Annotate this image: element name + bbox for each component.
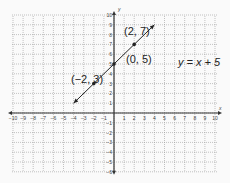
svg-text:−8: −8 bbox=[30, 115, 36, 121]
svg-text:6: 6 bbox=[109, 51, 112, 57]
svg-text:9: 9 bbox=[204, 115, 207, 121]
svg-text:3: 3 bbox=[143, 115, 146, 121]
point-label-0-5: (0, 5) bbox=[126, 53, 152, 65]
svg-text:2: 2 bbox=[133, 115, 136, 121]
point-label-2-7: (2, 7) bbox=[124, 25, 150, 37]
svg-text:4: 4 bbox=[153, 115, 156, 121]
svg-text:−4: −4 bbox=[71, 115, 77, 121]
svg-text:−5: −5 bbox=[61, 115, 67, 121]
coordinate-plane: −10−9−8−7−6−5−4−3−2−112345678910−6−5−4−3… bbox=[0, 0, 230, 183]
svg-text:7: 7 bbox=[183, 115, 186, 121]
svg-text:−7: −7 bbox=[40, 115, 46, 121]
svg-text:2: 2 bbox=[109, 90, 112, 96]
svg-text:−1: −1 bbox=[106, 120, 112, 126]
svg-text:−10: −10 bbox=[9, 115, 18, 121]
svg-text:8: 8 bbox=[193, 115, 196, 121]
svg-text:1: 1 bbox=[123, 115, 126, 121]
svg-text:−2: −2 bbox=[91, 115, 97, 121]
svg-text:10: 10 bbox=[212, 115, 218, 121]
svg-text:−6: −6 bbox=[106, 169, 112, 175]
x-axis-label: x bbox=[218, 105, 222, 111]
svg-text:10: 10 bbox=[106, 12, 112, 18]
svg-text:4: 4 bbox=[109, 71, 112, 77]
axes bbox=[8, 11, 222, 175]
svg-text:−6: −6 bbox=[51, 115, 57, 121]
svg-text:−3: −3 bbox=[81, 115, 87, 121]
svg-text:7: 7 bbox=[109, 41, 112, 47]
svg-text:−5: −5 bbox=[106, 159, 112, 165]
y-axis-label: y bbox=[117, 6, 121, 12]
svg-text:3: 3 bbox=[109, 81, 112, 87]
svg-text:6: 6 bbox=[173, 115, 176, 121]
svg-text:−3: −3 bbox=[106, 139, 112, 145]
svg-text:8: 8 bbox=[109, 32, 112, 38]
svg-text:1: 1 bbox=[109, 100, 112, 106]
svg-text:−2: −2 bbox=[106, 130, 112, 136]
equation-label: y = x + 5 bbox=[177, 56, 221, 68]
svg-text:−4: −4 bbox=[106, 149, 112, 155]
svg-text:−9: −9 bbox=[20, 115, 26, 121]
point-label-neg2-3: (−2, 3) bbox=[71, 73, 103, 85]
svg-text:9: 9 bbox=[109, 22, 112, 28]
svg-text:5: 5 bbox=[163, 115, 166, 121]
